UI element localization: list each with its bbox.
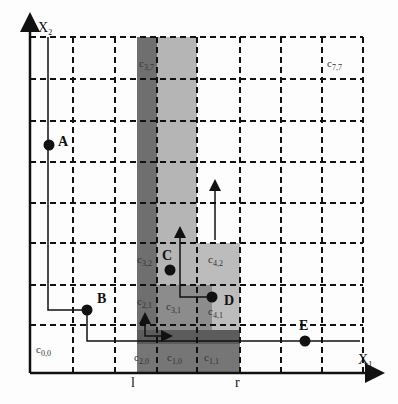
cell-label-c00: c0,0 <box>36 343 51 358</box>
label-a: A <box>58 134 69 149</box>
dark-band-row2 <box>137 330 240 344</box>
point-c <box>165 265 176 276</box>
label-d: D <box>224 293 234 308</box>
cell-label-c77: c7,7 <box>327 57 342 72</box>
point-d <box>207 292 218 303</box>
label-b: B <box>97 291 106 306</box>
point-a <box>44 140 55 151</box>
dark-strip <box>137 37 157 373</box>
left-bound-label: l <box>131 375 135 390</box>
label-e: E <box>299 318 308 333</box>
x-axis-label: X1 <box>358 352 372 369</box>
cell-grid-diagram: A B C D E X2 X1 l r c0,0 c7,7 c3,7 c3,2 … <box>0 0 398 404</box>
right-bound-label: r <box>235 375 240 390</box>
point-e <box>300 336 311 347</box>
path-a-to-b <box>48 37 86 310</box>
y-axis-label: X2 <box>38 20 52 37</box>
label-c: C <box>162 248 172 263</box>
point-b <box>82 305 93 316</box>
shaded-regions <box>137 37 240 373</box>
